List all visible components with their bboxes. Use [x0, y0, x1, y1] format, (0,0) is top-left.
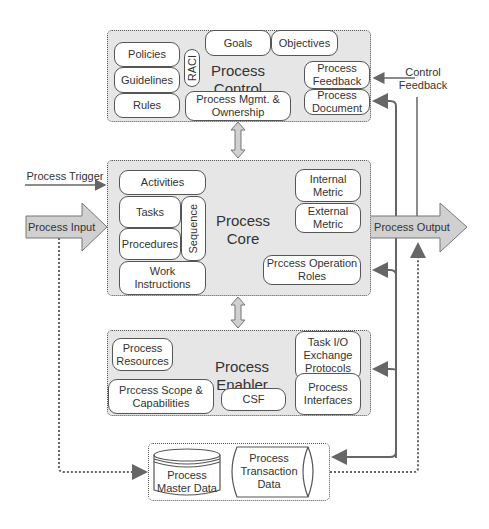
master-data-line1: Process [154, 469, 220, 482]
transaction-data-line3: Data [232, 478, 306, 491]
master-data-line2: Master Data [154, 482, 220, 495]
data-store-shapes [0, 0, 489, 529]
transaction-data-label: Process Transaction Data [232, 452, 306, 491]
transaction-data-line1: Process [232, 452, 306, 465]
master-data-label: Process Master Data [154, 469, 220, 495]
transaction-data-line2: Transaction [232, 465, 306, 478]
